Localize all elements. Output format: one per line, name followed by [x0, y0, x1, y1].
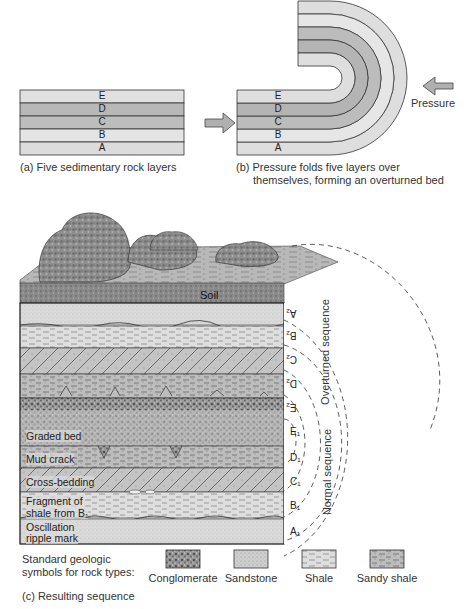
- soil-layer: [20, 283, 284, 303]
- legend-title-line1: Standard geologic: [22, 553, 111, 566]
- panel-b-fold: [237, 0, 412, 155]
- overturned-label-b2: B₂: [286, 330, 297, 341]
- panel-b-caption-line1: (b) Pressure folds five layers over: [236, 161, 400, 174]
- fold-label-c: C: [268, 116, 288, 127]
- normal-label-c1: C₁: [290, 476, 301, 487]
- legend-label-sandstone: Sandstone: [221, 572, 281, 584]
- layer-label-a: A: [20, 142, 184, 153]
- fold-label-e: E: [268, 90, 288, 101]
- legend-label-shale: Shale: [295, 572, 343, 584]
- panel-c-caption: (c) Resulting sequence: [22, 590, 135, 603]
- overturned-label-d2: D₂: [286, 378, 297, 389]
- fold-label-d: D: [268, 103, 288, 114]
- mud-crack-label: Mud crack: [26, 453, 74, 465]
- legend-label-sandy-shale: Sandy shale: [355, 572, 419, 584]
- legend-swatch-conglomerate: [166, 550, 200, 568]
- fold-label-b: B: [268, 129, 288, 140]
- legend-swatch-sandy-shale: [370, 550, 404, 568]
- layer-label-b: B: [20, 129, 184, 140]
- pressure-arrow-icon: [423, 77, 453, 95]
- panel-a-caption: (a) Five sedimentary rock layers: [20, 161, 177, 174]
- normal-label-b1: B₁: [290, 500, 300, 511]
- overturned-sequence-label: Overturned sequence: [319, 297, 331, 407]
- normal-sequence-label: Normal sequence: [321, 427, 333, 517]
- fragment-label-line1: Fragment of: [26, 495, 83, 507]
- overturned-label-c2: C₂: [286, 354, 297, 365]
- fragment-label-line2: shale from B₁: [26, 507, 88, 519]
- overturned-label-e2: E₂: [286, 402, 297, 413]
- cross-bedding-label: Cross-bedding: [26, 476, 94, 488]
- pressure-label: Pressure: [411, 97, 455, 110]
- layer-label-d: D: [20, 103, 184, 114]
- oscillation-label-line2: ripple mark: [26, 532, 78, 544]
- legend-label-conglomerate: Conglomerate: [145, 572, 221, 584]
- arrow-right-icon: [205, 113, 235, 133]
- normal-label-a1: A₁: [290, 526, 300, 537]
- legend-title-line2: symbols for rock types:: [22, 566, 134, 579]
- legend-swatch-sandstone: [234, 550, 268, 568]
- fold-label-a: A: [268, 142, 288, 153]
- legend-swatch-shale: [302, 550, 336, 568]
- panel-b-caption-line2: themselves, forming an overturned bed: [253, 174, 444, 187]
- normal-label-e1: E₁: [290, 426, 300, 437]
- soil-label: Soil: [200, 289, 218, 301]
- layer-label-c: C: [20, 116, 184, 127]
- overturned-label-a2: A₂: [286, 308, 297, 319]
- normal-label-d1: D₁: [290, 452, 301, 463]
- fold-arcs: [284, 244, 440, 556]
- graded-bed-label: Graded bed: [26, 430, 81, 442]
- layer-label-e: E: [20, 90, 184, 101]
